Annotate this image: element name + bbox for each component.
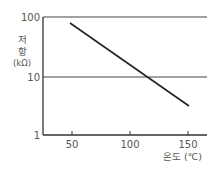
resistance-line xyxy=(70,23,189,106)
y-axis-label-line-3: (kΩ) xyxy=(13,58,31,68)
y-tick-label-100: 100 xyxy=(21,12,40,23)
x-tick-label-150: 150 xyxy=(178,139,197,150)
y-tick-label-10: 10 xyxy=(27,72,40,83)
x-tick-label-100: 100 xyxy=(120,139,139,150)
x-tick-label-50: 50 xyxy=(66,139,79,150)
resistance-temperature-chart: 100 10 1 50 100 150 저 항 (kΩ) 온도 (℃) xyxy=(0,0,220,170)
y-tick-label-1: 1 xyxy=(34,130,40,141)
y-axis-label-line-1: 저 xyxy=(18,34,27,45)
y-axis-label-line-2: 항 xyxy=(18,46,27,57)
x-axis-label: 온도 (℃) xyxy=(163,151,202,162)
